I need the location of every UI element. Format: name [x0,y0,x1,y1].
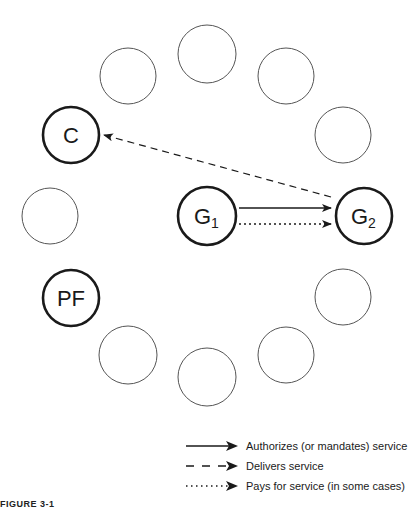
legend-label-authorizes: Authorizes (or mandates) service [246,440,407,452]
legend-label-delivers: Delivers service [246,460,324,472]
dashed-arrow-icon [186,460,238,472]
legend-label-pays: Pays for service (in some cases) [246,480,405,492]
node-c: C [43,107,99,163]
node-c-label: C [63,123,79,148]
legend-item-delivers: Delivers service [186,456,418,476]
legend-item-authorizes: Authorizes (or mandates) service [186,436,418,456]
node-g1: G 1 [178,187,236,245]
figure-caption: FIGURE 3-1 [0,499,55,509]
node-upper-right [258,48,314,104]
node-upper-left [100,48,156,104]
node-lower-right [258,327,314,383]
legend: Authorizes (or mandates) service Deliver… [186,436,418,496]
legend-item-pays: Pays for service (in some cases) [186,476,418,496]
node-g1-label: G [194,204,211,229]
dotted-arrow-icon [186,480,238,492]
node-pf: PF [43,270,99,326]
node-g2-subscript: 2 [368,215,376,231]
node-g1-subscript: 1 [211,215,219,231]
node-pf-label: PF [57,286,85,311]
node-g2-label: G [351,204,368,229]
node-right-lower [315,269,371,325]
node-top [178,25,236,83]
solid-arrow-icon [186,440,238,452]
node-bottom [178,348,236,406]
node-left [22,188,78,244]
node-g2: G 2 [336,188,392,244]
node-lower-left [99,326,157,384]
node-right-upper [315,107,371,163]
